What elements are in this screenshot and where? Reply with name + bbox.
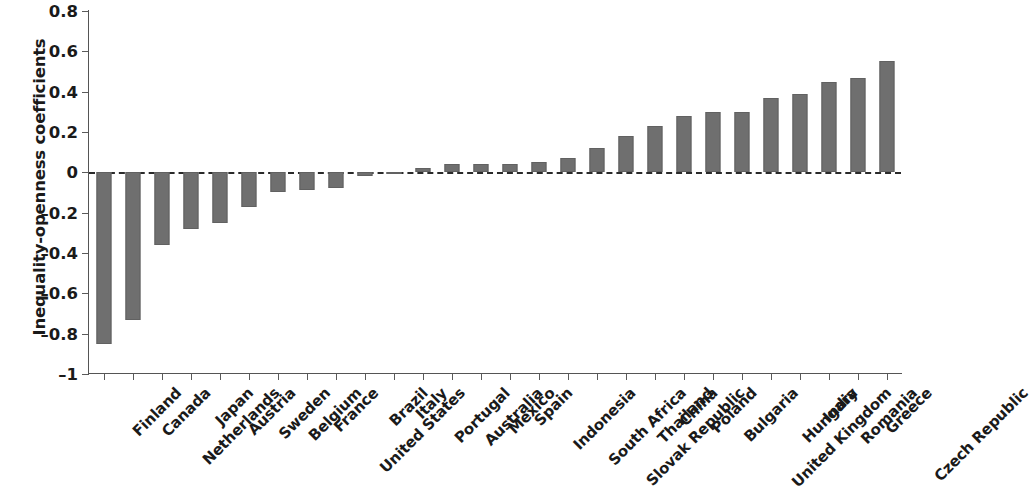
- bar-column: [872, 11, 901, 374]
- x-axis-tick-mark: [829, 374, 830, 380]
- bar: [618, 136, 633, 172]
- bar: [734, 112, 749, 173]
- x-axis-tick-mark: [510, 374, 511, 380]
- bar: [676, 116, 691, 172]
- bar: [96, 172, 111, 343]
- x-axis-tick-mark: [452, 374, 453, 380]
- bar: [879, 61, 894, 172]
- bar: [473, 164, 488, 172]
- bar: [386, 172, 401, 174]
- bar-column: [408, 11, 437, 374]
- bar: [647, 126, 662, 172]
- x-axis-tick-mark: [626, 374, 627, 380]
- y-axis-tick-label: 0.6: [49, 42, 78, 61]
- bar: [560, 158, 575, 172]
- bar-column: [379, 11, 408, 374]
- x-axis-tick-mark: [307, 374, 308, 380]
- bar-column: [640, 11, 669, 374]
- bar-column: [147, 11, 176, 374]
- bar-column: [611, 11, 640, 374]
- bar: [444, 164, 459, 172]
- bar-column: [292, 11, 321, 374]
- bar: [328, 172, 343, 188]
- bar: [415, 168, 430, 172]
- x-axis-tick-mark: [887, 374, 888, 380]
- y-axis-tick-label: 0.8: [49, 2, 78, 21]
- bar: [212, 172, 227, 222]
- bar-column: [524, 11, 553, 374]
- bar: [763, 98, 778, 173]
- bar-column: [466, 11, 495, 374]
- bar-column: [350, 11, 379, 374]
- bar-column: [205, 11, 234, 374]
- y-axis-tick-label: –0.2: [41, 203, 78, 222]
- bar: [299, 172, 314, 190]
- bar: [589, 148, 604, 172]
- bar-column: [553, 11, 582, 374]
- bar-column: [582, 11, 611, 374]
- y-axis-tick-label: –0.4: [41, 244, 78, 263]
- bar-column: [814, 11, 843, 374]
- bar-column: [785, 11, 814, 374]
- bar: [183, 172, 198, 228]
- x-axis-tick-label: Czech Republic: [930, 384, 1031, 485]
- bar: [241, 172, 256, 206]
- x-axis-tick-mark: [568, 374, 569, 380]
- bar-column: [89, 11, 118, 374]
- bar-column: [756, 11, 785, 374]
- bar-column: [437, 11, 466, 374]
- bar: [357, 172, 372, 176]
- x-axis-tick-mark: [771, 374, 772, 380]
- x-axis-tick-mark: [336, 374, 337, 380]
- y-axis-tick-label: –0.8: [41, 324, 78, 343]
- x-axis-tick-mark: [133, 374, 134, 380]
- x-axis-tick-mark: [394, 374, 395, 380]
- x-axis-tick-mark: [858, 374, 859, 380]
- x-axis-tick-mark: [249, 374, 250, 380]
- bar: [531, 162, 546, 172]
- x-axis-tick-mark: [539, 374, 540, 380]
- bar: [821, 82, 836, 173]
- bar: [270, 172, 285, 192]
- x-axis-tick-mark: [220, 374, 221, 380]
- x-axis-tick-mark: [597, 374, 598, 380]
- x-axis-tick-mark: [365, 374, 366, 380]
- x-axis-tick-mark: [742, 374, 743, 380]
- bar-column: [321, 11, 350, 374]
- x-axis-tick-mark: [481, 374, 482, 380]
- y-axis-tick-label: –1: [58, 365, 78, 384]
- bar-column: [118, 11, 147, 374]
- bar: [125, 172, 140, 319]
- bar-column: [669, 11, 698, 374]
- bar-column: [176, 11, 205, 374]
- bar: [705, 112, 720, 173]
- bar-column: [843, 11, 872, 374]
- bar-column: [698, 11, 727, 374]
- x-axis-tick-mark: [800, 374, 801, 380]
- y-axis-tick-label: 0.2: [49, 123, 78, 142]
- bar: [154, 172, 169, 245]
- bar: [792, 94, 807, 173]
- plot-area: [89, 11, 901, 374]
- bar-column: [263, 11, 292, 374]
- x-axis-tick-mark: [162, 374, 163, 380]
- x-axis-tick-mark: [278, 374, 279, 380]
- y-axis-tick-label: 0.4: [49, 82, 78, 101]
- bar-column: [727, 11, 756, 374]
- x-axis-tick-mark: [713, 374, 714, 380]
- bar-column: [495, 11, 524, 374]
- bar-column: [234, 11, 263, 374]
- x-axis-tick-mark: [191, 374, 192, 380]
- bar: [850, 78, 865, 173]
- x-axis-tick-mark: [655, 374, 656, 380]
- x-axis-tick-mark: [104, 374, 105, 380]
- y-axis-tick-label: –0.6: [41, 284, 78, 303]
- bar: [502, 164, 517, 172]
- x-axis-tick-mark: [423, 374, 424, 380]
- x-axis-tick-mark: [684, 374, 685, 380]
- y-axis-tick-label: 0: [67, 163, 78, 182]
